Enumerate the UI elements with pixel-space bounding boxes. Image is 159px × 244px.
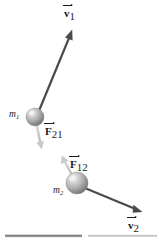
label-f21: F21 [45, 122, 63, 140]
mass-sphere-m2 [66, 172, 88, 194]
label-v1-symbol: v [64, 7, 70, 19]
vector-symbol-v1: v [64, 8, 70, 19]
label-v2-symbol: v [128, 219, 134, 231]
vector-overbar-icon [69, 156, 79, 157]
label-f21-subscript: 21 [52, 128, 63, 140]
label-v1: v1 [64, 4, 75, 22]
vector-overbar-icon [44, 123, 54, 124]
label-v2: v2 [128, 216, 139, 234]
diagram-canvas [0, 0, 159, 244]
label-m2-subscript: 2 [60, 189, 63, 196]
label-f12-subscript: 12 [77, 161, 88, 173]
label-m2-symbol: m [53, 185, 60, 195]
vector-overbar-icon [63, 5, 72, 6]
bottom-rule-left [5, 235, 82, 238]
label-f12: F12 [70, 155, 88, 173]
mass-sphere-m1 [26, 108, 44, 126]
physics-figure: v1 v2 F21 F12 m1 m2 [0, 0, 159, 244]
vector-arrow-v2 [86, 189, 143, 213]
vector-symbol-f12: F [70, 159, 77, 170]
label-m1-subscript: 1 [16, 113, 19, 120]
vector-arrow-v1 [39, 30, 73, 113]
label-v2-subscript: 2 [134, 222, 139, 234]
label-m1: m1 [9, 110, 19, 120]
vector-symbol-v2: v [128, 220, 134, 231]
label-m1-symbol: m [9, 109, 16, 119]
bottom-rule-right [88, 235, 157, 237]
label-m2: m2 [53, 186, 63, 196]
label-v1-subscript: 1 [70, 10, 75, 22]
label-f12-symbol: F [70, 158, 77, 170]
label-f21-symbol: F [45, 125, 52, 137]
vector-overbar-icon [127, 217, 136, 218]
vector-symbol-f21: F [45, 126, 52, 137]
vector-arrow-f21 [36, 124, 44, 150]
